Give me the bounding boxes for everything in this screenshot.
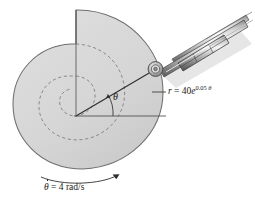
equation-equals: = [172,86,182,96]
theta-dot-glyph: θ [44,182,49,192]
theta-dot-symbol: θ [44,183,49,193]
figure-diagram-svg [0,0,255,201]
angular-rate-label: θ = 4 rad/s [44,183,84,193]
angular-rate-units: rad/s [66,182,84,192]
spiral-cam-body [13,10,163,169]
radius-equation-label: r = 40e0.05 θ [168,87,211,97]
exponent-theta: θ [208,84,211,91]
pin-follower [148,62,163,77]
mechanics-figure: r = 40e0.05 θ θ θ = 4 rad/s [0,0,255,201]
exponent-coefficient: 0.05 [196,84,207,91]
equation-coefficient: 40 [182,86,192,96]
theta-angle-label: θ [113,92,118,102]
angular-rate-equals: = 4 [49,182,66,192]
equation-exponent: 0.05 θ [196,84,212,91]
